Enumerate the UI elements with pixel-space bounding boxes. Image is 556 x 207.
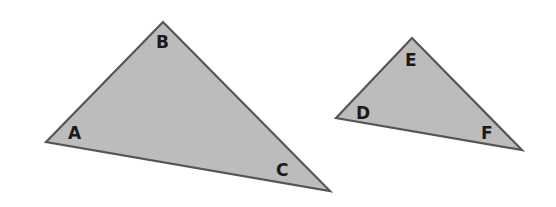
vertex-label-a: A (68, 123, 82, 143)
vertex-label-e: E (405, 50, 417, 70)
vertex-label-b: B (156, 32, 169, 52)
triangle-abc: A B C (46, 22, 330, 191)
similar-triangles-diagram: A B C D E F (0, 0, 556, 207)
vertex-label-c: C (276, 160, 288, 180)
vertex-label-d: D (356, 103, 370, 123)
triangle-def-shape (336, 38, 522, 150)
vertex-label-f: F (481, 123, 493, 143)
triangle-def: D E F (336, 38, 522, 150)
